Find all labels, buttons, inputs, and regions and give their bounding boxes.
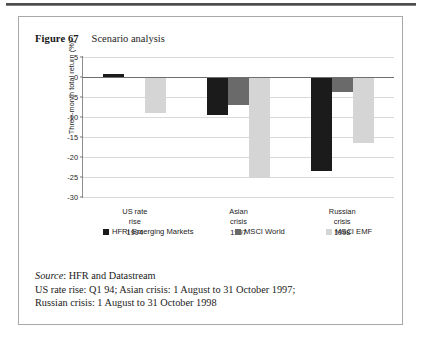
y-tick-label: -20	[67, 153, 78, 162]
legend-label: HFRI Emerging Markets	[112, 227, 193, 236]
legend-swatch-icon	[326, 229, 332, 235]
gridline	[83, 197, 394, 198]
chart-legend: HFRI Emerging MarketsMSCI WorldMSCI EMF	[83, 227, 394, 241]
y-tick-mark	[80, 117, 83, 118]
x-axis-category-line: Russian	[329, 207, 356, 217]
y-tick-label: -15	[67, 133, 78, 142]
y-tick-label: 0	[74, 73, 78, 82]
y-tick-label: -30	[67, 193, 78, 202]
figure-box: Figure 67Scenario analysis Three-month t…	[18, 16, 403, 325]
bar-2-2	[353, 77, 374, 143]
gridline	[83, 137, 394, 138]
bar-1-1	[228, 77, 249, 105]
bar-2-0	[311, 77, 332, 171]
legend-item-1[interactable]: MSCI World	[235, 227, 285, 236]
y-tick-mark	[80, 157, 83, 158]
y-tick-label: -25	[67, 173, 78, 182]
footnote-line-3: Russian crisis: 1 August to 31 October 1…	[35, 296, 385, 310]
y-tick-label: -10	[67, 113, 78, 122]
legend-item-0[interactable]: HFRI Emerging Markets	[103, 227, 193, 236]
gridline	[83, 57, 394, 58]
source-text: : HFR and Datastream	[63, 270, 155, 281]
legend-label: MSCI EMF	[335, 227, 372, 236]
page-top-rule	[6, 3, 416, 6]
bar-1-0	[207, 77, 228, 115]
y-tick-mark	[80, 97, 83, 98]
bar-1-2	[249, 77, 270, 178]
gridline	[83, 157, 394, 158]
x-axis-category-line: Asian	[229, 207, 248, 217]
y-tick-mark	[80, 177, 83, 178]
y-tick-mark	[80, 57, 83, 58]
x-axis-category-line: US rate	[122, 207, 147, 217]
zero-line	[83, 77, 394, 78]
legend-item-2[interactable]: MSCI EMF	[326, 227, 372, 236]
footnote-line-2: US rate rise: Q1 94; Asian crisis: 1 Aug…	[35, 283, 385, 297]
y-tick-mark	[80, 197, 83, 198]
y-tick-mark	[80, 137, 83, 138]
chart-area: Three-month total return (%) 50-5-10-15-…	[27, 31, 396, 277]
y-tick-label: 5	[74, 53, 78, 62]
y-tick-label: -5	[71, 93, 78, 102]
gridline	[83, 177, 394, 178]
source-line: Source: HFR and Datastream	[35, 269, 385, 283]
bar-0-2	[145, 77, 166, 113]
figure-footnotes: Source: HFR and Datastream US rate rise:…	[35, 269, 385, 310]
source-label: Source	[35, 270, 63, 281]
plot-area: 50-5-10-15-20-25-30US raterise1994Asianc…	[83, 57, 394, 197]
bar-2-1	[332, 77, 353, 92]
legend-label: MSCI World	[244, 227, 285, 236]
legend-swatch-icon	[103, 229, 109, 235]
gridline	[83, 117, 394, 118]
legend-swatch-icon	[235, 229, 241, 235]
